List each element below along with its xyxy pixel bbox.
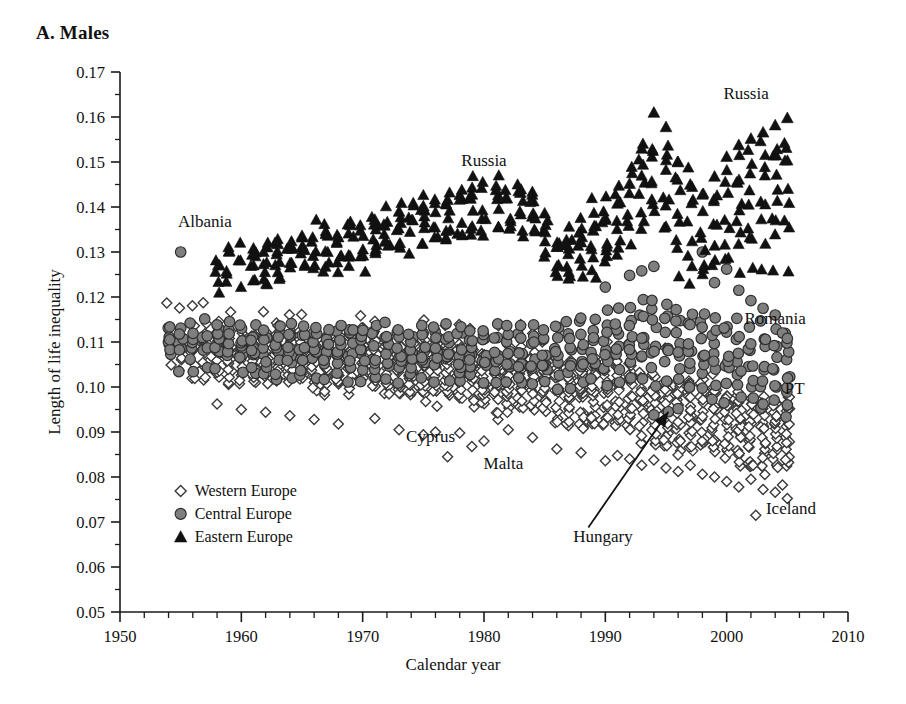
point-western-europe: [297, 309, 307, 319]
point-central-europe: [707, 394, 718, 405]
point-eastern-europe: [311, 214, 322, 224]
point-central-europe: [428, 322, 439, 333]
point-central-europe: [501, 377, 512, 388]
point-central-europe: [721, 264, 732, 275]
point-central-europe: [683, 339, 694, 350]
point-central-europe: [748, 393, 759, 404]
point-central-europe: [611, 344, 622, 355]
point-western-europe: [432, 401, 442, 411]
point-central-europe: [602, 305, 613, 316]
point-central-europe: [344, 356, 355, 367]
point-eastern-europe: [539, 207, 551, 218]
point-eastern-europe: [721, 151, 733, 162]
point-western-europe: [746, 474, 756, 484]
point-eastern-europe: [760, 149, 771, 159]
point-central-europe: [659, 356, 670, 367]
point-central-europe: [637, 374, 648, 385]
point-central-europe: [538, 325, 549, 336]
point-central-europe: [671, 316, 682, 327]
point-central-europe: [175, 247, 186, 258]
point-central-europe: [420, 342, 431, 353]
point-central-europe: [758, 399, 769, 410]
point-eastern-europe: [575, 212, 586, 222]
point-central-europe: [431, 333, 442, 344]
point-eastern-europe: [660, 121, 672, 132]
point-eastern-europe: [429, 194, 440, 204]
point-central-europe: [465, 326, 476, 337]
point-central-europe: [624, 344, 635, 355]
point-western-europe: [637, 431, 647, 441]
point-eastern-europe: [368, 234, 379, 244]
point-eastern-europe: [783, 266, 794, 276]
point-central-europe: [770, 381, 781, 392]
point-central-europe: [441, 319, 452, 330]
point-eastern-europe: [514, 206, 525, 216]
point-eastern-europe: [611, 215, 622, 225]
point-central-europe: [432, 353, 443, 364]
point-eastern-europe: [262, 237, 273, 247]
point-central-europe: [769, 340, 780, 351]
point-western-europe: [770, 487, 780, 497]
point-eastern-europe: [235, 281, 246, 291]
point-central-europe: [649, 410, 660, 421]
point-eastern-europe: [418, 189, 429, 199]
x-tick-label: 1980: [468, 627, 501, 646]
point-central-europe: [671, 327, 682, 338]
point-central-europe: [781, 412, 792, 423]
annotation-cyprus: Cyprus: [406, 427, 455, 446]
point-eastern-europe: [286, 236, 297, 246]
point-central-europe: [336, 320, 347, 331]
point-central-europe: [311, 322, 322, 333]
point-eastern-europe: [404, 248, 415, 258]
point-western-europe: [758, 485, 768, 495]
point-eastern-europe: [394, 237, 405, 247]
point-eastern-europe: [214, 287, 225, 297]
point-eastern-europe: [343, 260, 354, 270]
point-central-europe: [174, 329, 185, 340]
point-eastern-europe: [743, 223, 754, 233]
point-central-europe: [270, 369, 281, 380]
point-eastern-europe: [633, 188, 644, 198]
point-eastern-europe: [430, 207, 441, 217]
point-eastern-europe: [756, 264, 767, 274]
point-central-europe: [684, 382, 695, 393]
point-central-europe: [587, 354, 598, 365]
point-central-europe: [627, 332, 638, 343]
point-eastern-europe: [493, 221, 504, 231]
point-central-europe: [614, 377, 625, 388]
point-eastern-europe: [757, 126, 769, 137]
chart-figure: A. Males Length of life inequality Calen…: [0, 0, 906, 704]
x-tick-label: 1950: [104, 627, 137, 646]
point-central-europe: [514, 373, 525, 384]
point-central-europe: [380, 317, 391, 328]
point-eastern-europe: [722, 187, 733, 197]
point-eastern-europe: [747, 262, 758, 272]
y-axis-label: Length of life inequality: [45, 202, 65, 502]
point-central-europe: [697, 383, 708, 394]
point-central-europe: [199, 314, 210, 325]
point-eastern-europe: [769, 229, 780, 239]
point-central-europe: [565, 361, 576, 372]
point-central-europe: [769, 395, 780, 406]
point-central-europe: [709, 356, 720, 367]
point-western-europe: [649, 455, 659, 465]
point-eastern-europe: [625, 239, 636, 249]
point-central-europe: [673, 374, 684, 385]
point-central-europe: [348, 325, 359, 336]
point-central-europe: [332, 368, 343, 379]
y-tick-label: 0.14: [76, 198, 105, 217]
point-central-europe: [295, 365, 306, 376]
point-central-europe: [537, 360, 548, 371]
point-central-europe: [710, 313, 721, 324]
point-eastern-europe: [686, 261, 697, 271]
point-eastern-europe: [684, 179, 696, 190]
point-central-europe: [430, 343, 441, 354]
point-eastern-europe: [355, 220, 366, 230]
y-tick-label: 0.05: [76, 603, 105, 622]
point-central-europe: [343, 377, 354, 388]
point-eastern-europe: [779, 215, 790, 225]
point-central-europe: [699, 350, 710, 361]
point-central-europe: [284, 329, 295, 340]
point-eastern-europe: [744, 185, 755, 195]
point-central-europe: [624, 270, 635, 281]
